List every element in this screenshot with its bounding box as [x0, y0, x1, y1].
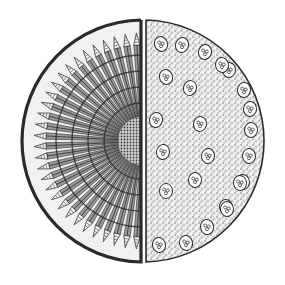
- vascular-bundle: [188, 172, 202, 188]
- bundle-sheath: [242, 148, 255, 163]
- vascular-bundle: [244, 122, 258, 137]
- stem-cross-section-figure: [0, 0, 285, 285]
- vascular-bundle: [160, 184, 173, 199]
- vascular-bundle: [242, 148, 255, 163]
- bundle-sheath: [220, 201, 234, 217]
- illustration-canvas: [0, 0, 285, 285]
- bundle-sheath: [160, 184, 173, 199]
- bundle-sheath: [244, 122, 258, 137]
- bundle-sheath: [188, 172, 202, 188]
- vascular-bundle: [220, 201, 234, 217]
